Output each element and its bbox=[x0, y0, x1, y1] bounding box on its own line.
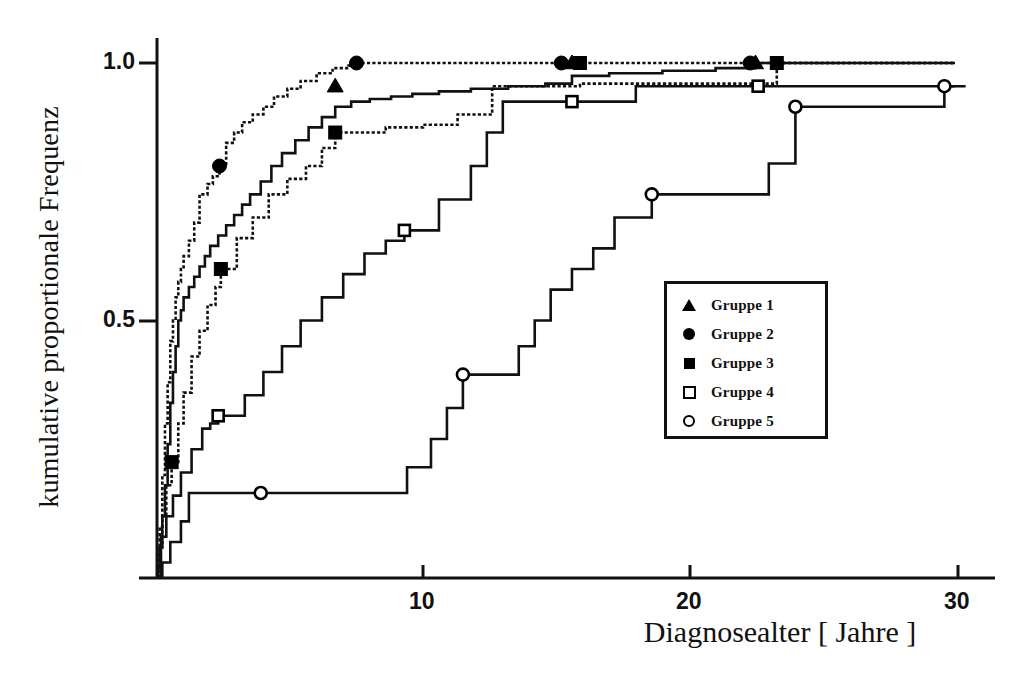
filled-circle-marker bbox=[554, 56, 568, 70]
filled-square-marker bbox=[329, 126, 342, 139]
open-square-icon bbox=[667, 386, 711, 399]
filled-square-marker bbox=[573, 57, 586, 70]
filled-square-marker bbox=[165, 456, 178, 469]
open-circle-marker bbox=[255, 487, 267, 499]
filled-circle-icon bbox=[667, 328, 711, 340]
plot-area bbox=[0, 0, 1010, 696]
series-markers bbox=[165, 55, 950, 499]
open-square-marker bbox=[399, 225, 410, 236]
legend-item-3: Gruppe 4 bbox=[667, 379, 831, 405]
legend-item-2: Gruppe 3 bbox=[667, 350, 831, 376]
legend-item-0: Gruppe 1 bbox=[667, 292, 831, 318]
series-line bbox=[158, 63, 955, 578]
open-circle-icon bbox=[667, 415, 711, 427]
open-circle-marker bbox=[938, 80, 950, 92]
figure-canvas: kumulative proportionale Frequenz Diagno… bbox=[0, 0, 1010, 696]
open-square-marker bbox=[213, 410, 224, 421]
legend-label: Gruppe 4 bbox=[711, 384, 774, 401]
filled-square-icon bbox=[667, 358, 711, 369]
open-square-marker bbox=[753, 81, 764, 92]
legend-label: Gruppe 2 bbox=[711, 326, 774, 343]
legend-label: Gruppe 3 bbox=[711, 355, 774, 372]
filled-circle-marker bbox=[350, 56, 364, 70]
legend-item-4: Gruppe 5 bbox=[667, 408, 831, 434]
open-square-marker bbox=[566, 96, 577, 107]
open-circle-marker bbox=[789, 101, 801, 113]
filled-triangle-marker bbox=[327, 78, 343, 92]
legend: Gruppe 1 Gruppe 2 Gruppe 3 Gruppe 4 Grup… bbox=[664, 281, 828, 439]
filled-triangle-icon bbox=[667, 299, 711, 311]
series-line bbox=[158, 63, 955, 578]
series-line bbox=[158, 63, 955, 578]
filled-square-marker bbox=[770, 57, 783, 70]
open-circle-marker bbox=[646, 188, 658, 200]
legend-label: Gruppe 1 bbox=[711, 297, 774, 314]
series-curves bbox=[158, 63, 965, 578]
filled-circle-marker bbox=[743, 56, 757, 70]
legend-item-1: Gruppe 2 bbox=[667, 321, 831, 347]
legend-label: Gruppe 5 bbox=[711, 413, 774, 430]
series-line bbox=[161, 86, 955, 578]
axis-lines bbox=[139, 38, 995, 578]
filled-circle-marker bbox=[213, 159, 227, 173]
open-circle-marker bbox=[457, 369, 469, 381]
filled-square-marker bbox=[214, 263, 227, 276]
